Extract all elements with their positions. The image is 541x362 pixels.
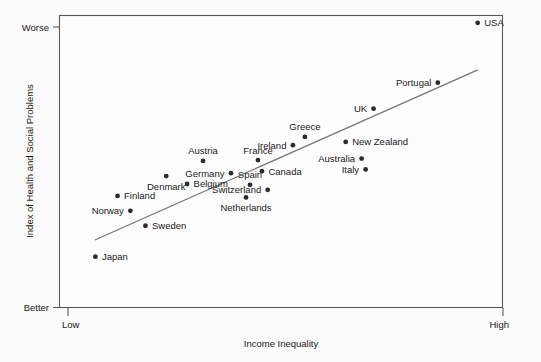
data-point-label: Canada [268,166,302,177]
data-point-label: Switzerland [212,184,261,195]
chart-canvas: Worse Better Low High Income Inequality … [0,0,541,362]
data-point-marker[interactable] [93,254,98,259]
data-point-label: France [243,145,273,156]
data-point-marker[interactable] [303,135,308,140]
data-point-marker[interactable] [265,187,270,192]
data-point-marker[interactable] [343,140,348,145]
data-point-label: Portugal [396,77,431,88]
data-point-marker[interactable] [128,208,133,213]
data-point-marker[interactable] [359,156,364,161]
data-point-marker[interactable] [201,159,206,164]
data-point-label: UK [354,103,368,114]
data-point-label: Germany [185,168,224,179]
data-point-label: Greece [289,121,320,132]
data-point-marker[interactable] [164,174,169,179]
data-point-marker[interactable] [435,80,440,85]
data-point-marker[interactable] [475,20,480,25]
x-tick-label-high: High [489,319,509,330]
plot-frame [60,16,503,308]
data-point-marker[interactable] [229,171,234,176]
data-point-label: Italy [342,164,360,175]
y-tick-label-worse: Worse [22,22,49,33]
data-point-label: Netherlands [220,202,271,213]
data-point-label: Finland [124,190,155,201]
x-axis-title: Income Inequality [244,338,319,349]
data-point-marker[interactable] [256,158,261,163]
data-point-marker[interactable] [363,167,368,172]
data-point-marker[interactable] [115,194,120,199]
data-point-label: USA [484,17,504,28]
data-point-label: Sweden [152,220,186,231]
data-point-label: Spain [238,169,262,180]
data-point-marker[interactable] [371,106,376,111]
data-point-marker[interactable] [185,182,190,187]
data-point-label: Australia [318,153,356,164]
data-point-marker[interactable] [291,143,296,148]
data-point-label: Japan [102,251,128,262]
data-point-marker[interactable] [244,195,249,200]
y-axis-title: Index of Health and Social Problems [24,84,35,238]
scatter-plot-figure: Worse Better Low High Income Inequality … [0,0,541,362]
data-point[interactable]: New Zealand [343,136,408,147]
data-point-marker[interactable] [143,223,148,228]
data-point-label: Norway [92,205,124,216]
y-tick-label-better: Better [24,302,49,313]
data-point-label: New Zealand [352,136,408,147]
data-point-label: Austria [188,145,218,156]
x-tick-label-low: Low [62,319,80,330]
